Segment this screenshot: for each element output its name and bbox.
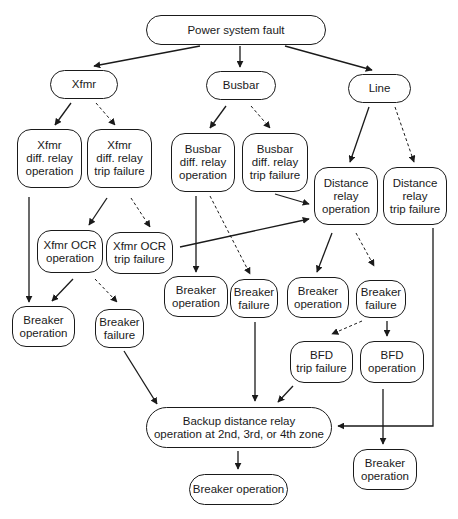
- node-brk-op-x: Breaker operation: [12, 306, 75, 347]
- edge-xfmr_ocr_fail-to-dist_op: [180, 219, 309, 247]
- node-xfmr-ocr-fail: Xfmr OCR trip failure: [106, 232, 173, 274]
- edge-busbar-to-bus_diff_fail: [251, 106, 270, 128]
- node-xfmr-diff-op: Xfmr diff. relay operation: [17, 129, 82, 188]
- node-root: Power system fault: [146, 15, 326, 45]
- edge-line-to-dist_op: [350, 107, 369, 162]
- node-brk-fail-b: Breaker failure: [230, 279, 278, 318]
- edge-dist_op-to-brk_op_l: [317, 233, 332, 272]
- edge-root-to-line: [285, 46, 372, 70]
- node-dist-fail: Distance relay trip failure: [383, 167, 447, 225]
- node-brk-fail-x: Breaker failure: [95, 309, 144, 348]
- node-brk-op-b: Breaker operation: [164, 276, 228, 317]
- node-brk-op-final: Breaker operation: [189, 474, 288, 505]
- edge-bfd_fail-to-backup: [278, 386, 293, 402]
- node-dist-op: Distance relay operation: [314, 167, 378, 225]
- edge-xfmr_ocr_op-to-brk_op_x: [52, 279, 73, 301]
- edge-brk_fail_x-to-backup: [124, 351, 157, 404]
- edge-xfmr_diff_fail-to-xfmr_ocr_fail: [131, 198, 150, 227]
- edge-brk_fail_l-to-bfd_fail: [332, 321, 362, 334]
- node-bfd-op: BFD operation: [360, 341, 424, 383]
- edge-xfmr_ocr_op-to-brk_fail_x: [95, 279, 117, 302]
- node-xfmr: Xfmr: [50, 70, 118, 99]
- node-busbar: Busbar: [206, 71, 276, 100]
- node-bus-diff-op: Busbar diff. relay operation: [171, 133, 235, 192]
- fault-cascade-diagram: Power system faultXfmrBusbarLineXfmr dif…: [0, 0, 458, 519]
- edge-xfmr_diff_fail-to-xfmr_ocr_op: [89, 198, 107, 225]
- edge-dist_fail-to-backup: [338, 228, 433, 426]
- edge-busbar-to-bus_diff_op: [210, 106, 226, 128]
- edge-line-to-dist_fail: [395, 107, 414, 162]
- edge-root-to-xfmr: [94, 46, 200, 66]
- edge-xfmr-to-xfmr_diff_fail: [96, 103, 115, 125]
- node-brk-op-l: Breaker operation: [287, 277, 349, 318]
- node-brk-fail-l: Breaker failure: [356, 280, 406, 318]
- edge-xfmr-to-xfmr_diff_op: [55, 103, 71, 125]
- edge-bus_diff_op-to-brk_fail_b: [210, 196, 250, 274]
- node-brk-op-bfd: Breaker operation: [353, 449, 417, 490]
- node-line: Line: [348, 74, 411, 103]
- edge-bus_diff_fail-to-dist_op: [275, 194, 309, 204]
- node-xfmr-ocr-op: Xfmr OCR operation: [37, 230, 103, 273]
- edge-dist_op-to-brk_fail_l: [356, 233, 374, 266]
- node-xfmr-diff-fail: Xfmr diff. relay trip failure: [87, 129, 152, 188]
- node-backup: Backup distance relay operation at 2nd, …: [146, 407, 332, 448]
- node-bfd-fail: BFD trip failure: [290, 341, 353, 383]
- node-bus-diff-fail: Busbar diff. relay trip failure: [242, 133, 308, 192]
